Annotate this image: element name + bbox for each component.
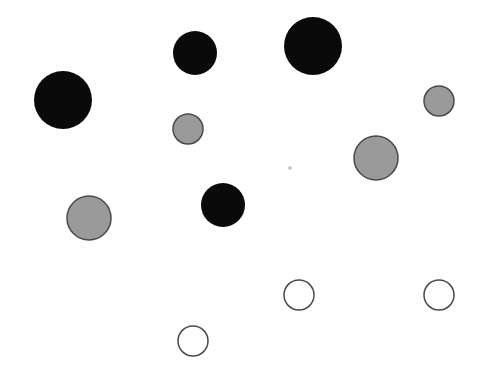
gray-circle-gray-small-center-left (173, 114, 203, 144)
dots-group (288, 166, 292, 170)
white-circle-white-small-center (284, 280, 314, 310)
black-circle-black-medium-top (173, 31, 217, 75)
black-circle-black-large-left (34, 71, 92, 129)
small-dot-center-dot (288, 166, 292, 170)
background (0, 0, 485, 367)
circle-diagram (0, 0, 485, 367)
black-circle-black-large-top (284, 17, 342, 75)
gray-circle-gray-medium-right (354, 136, 398, 180)
black-circle-black-medium-center (201, 183, 245, 227)
gray-circle-gray-medium-left (67, 196, 111, 240)
white-circle-white-small-bottom (178, 326, 208, 356)
gray-circle-gray-small-right (424, 86, 454, 116)
white-circle-white-small-right (424, 280, 454, 310)
